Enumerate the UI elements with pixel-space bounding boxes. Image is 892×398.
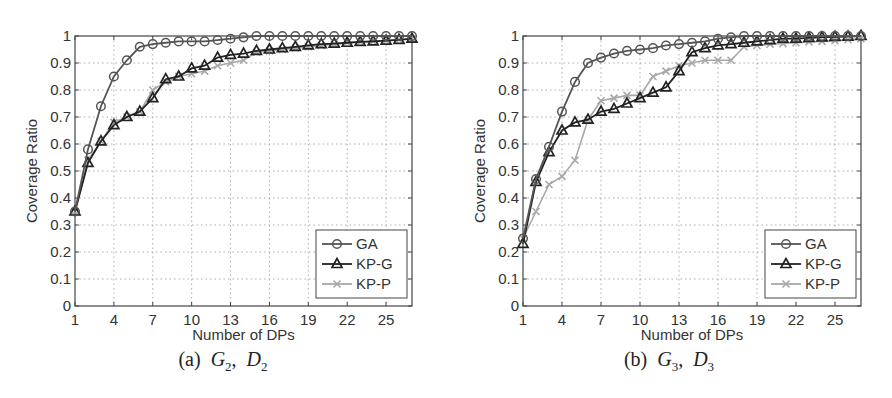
y-tick-label: 0.6 — [50, 135, 71, 152]
x-tick-label: 1 — [71, 311, 79, 328]
y-tick-label: 0.9 — [50, 54, 71, 71]
series-line — [75, 36, 412, 212]
y-axis-label: Coverage Ratio — [471, 119, 488, 223]
caption-graph: G — [211, 348, 225, 370]
x-tick-label: 7 — [597, 311, 605, 328]
y-tick-label: 0.8 — [50, 81, 71, 98]
y-tick-label: 0.8 — [498, 81, 519, 98]
x-tick-label: 22 — [339, 311, 356, 328]
y-axis-label: Coverage Ratio — [23, 119, 40, 223]
caption-graph-sub: 3 — [672, 359, 679, 374]
x-tick-label: 19 — [749, 311, 766, 328]
y-tick-label: 1 — [63, 27, 71, 44]
series-kp-p — [520, 35, 865, 242]
chart-panel-b: 14710131619222500.10.20.30.40.50.60.70.8… — [446, 0, 892, 398]
caption-label: (a) — [178, 348, 200, 370]
legend-label: GA — [805, 235, 827, 252]
x-tick-label: 7 — [149, 311, 157, 328]
y-tick-label: 1 — [511, 27, 519, 44]
coverage-chart-b: 14710131619222500.10.20.30.40.50.60.70.8… — [446, 0, 892, 345]
caption-dataset-sub: 3 — [708, 359, 715, 374]
x-tick-label: 4 — [558, 311, 566, 328]
x-tick-label: 25 — [378, 311, 395, 328]
y-tick-label: 0.7 — [50, 108, 71, 125]
caption-graph-sub: 2 — [225, 359, 232, 374]
y-tick-label: 0.9 — [498, 54, 519, 71]
caption-label: (b) — [624, 348, 647, 370]
y-tick-label: 0.1 — [498, 270, 519, 287]
y-tick-label: 0.6 — [498, 135, 519, 152]
legend-label: KP-G — [356, 255, 393, 272]
legend-label: KP-P — [356, 275, 391, 292]
caption-graph: G — [657, 348, 671, 370]
y-tick-label: 0.3 — [50, 216, 71, 233]
legend: GAKP-GKP-P — [316, 230, 407, 298]
y-tick-label: 0.4 — [498, 189, 519, 206]
series-line — [523, 36, 861, 244]
caption-a: (a) G2, D2 — [0, 348, 446, 375]
x-tick-label: 4 — [110, 311, 118, 328]
legend-label: GA — [356, 235, 378, 252]
x-tick-label: 19 — [300, 311, 317, 328]
y-tick-label: 0.3 — [498, 216, 519, 233]
y-tick-label: 0.5 — [498, 162, 519, 179]
y-tick-label: 0.4 — [50, 189, 71, 206]
caption-dataset: D — [247, 348, 261, 370]
caption-dataset-sub: 2 — [261, 359, 268, 374]
x-tick-label: 22 — [788, 311, 805, 328]
legend: GAKP-GKP-P — [765, 230, 856, 298]
y-tick-label: 0 — [511, 297, 519, 314]
y-tick-label: 0.2 — [50, 243, 71, 260]
x-tick-label: 25 — [827, 311, 844, 328]
x-axis-label: Number of DPs — [641, 326, 744, 343]
coverage-chart-a: 14710131619222500.10.20.30.40.50.60.70.8… — [0, 0, 446, 345]
x-axis-label: Number of DPs — [192, 326, 295, 343]
y-tick-label: 0.1 — [50, 270, 71, 287]
y-tick-label: 0.5 — [50, 162, 71, 179]
chart-panel-a: 14710131619222500.10.20.30.40.50.60.70.8… — [0, 0, 446, 398]
series-line — [523, 36, 861, 239]
y-tick-label: 0.7 — [498, 108, 519, 125]
x-tick-label: 1 — [519, 311, 527, 328]
caption-dataset: D — [693, 348, 707, 370]
legend-label: KP-P — [805, 275, 840, 292]
y-tick-label: 0 — [63, 297, 71, 314]
caption-b: (b) G3, D3 — [446, 348, 892, 375]
legend-label: KP-G — [805, 255, 842, 272]
series-line — [523, 39, 861, 239]
y-tick-label: 0.2 — [498, 243, 519, 260]
